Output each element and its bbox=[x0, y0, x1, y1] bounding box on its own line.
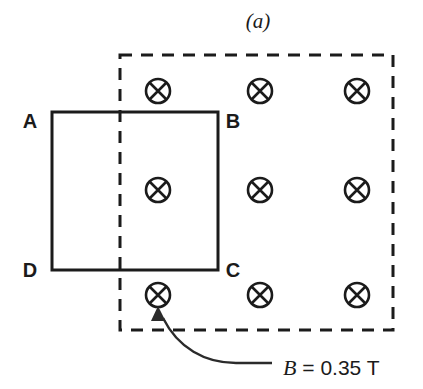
field-symbol-into-page bbox=[146, 178, 170, 202]
figure-canvas: (a) bbox=[0, 0, 423, 389]
field-symbol-into-page bbox=[345, 283, 369, 307]
field-symbol-into-page bbox=[248, 79, 272, 103]
field-symbol-into-page bbox=[345, 178, 369, 202]
magnetic-field-equals: = bbox=[296, 356, 320, 379]
field-symbol-into-page bbox=[345, 79, 369, 103]
conducting-loop bbox=[52, 112, 218, 270]
figure-caption: (a) bbox=[246, 9, 271, 33]
annotation-leader-arrowhead bbox=[151, 306, 166, 321]
field-symbol-into-page bbox=[248, 283, 272, 307]
field-symbol-into-page bbox=[146, 283, 170, 307]
loop-vertex-label-c: C bbox=[226, 259, 240, 281]
loop-vertex-label-d: D bbox=[23, 259, 37, 281]
annotation-leader-line bbox=[163, 318, 272, 363]
magnetic-field-value-label: B = 0.35 T bbox=[283, 355, 380, 380]
magnetic-field-symbol: B bbox=[283, 355, 296, 380]
loop-vertex-label-a: A bbox=[23, 110, 37, 132]
physics-figure-magnetic-field-loop: (a) bbox=[0, 0, 423, 389]
field-symbol-into-page bbox=[146, 79, 170, 103]
magnetic-field-value: 0.35 T bbox=[320, 356, 379, 379]
loop-vertex-label-b: B bbox=[226, 110, 240, 132]
field-symbol-into-page bbox=[248, 178, 272, 202]
